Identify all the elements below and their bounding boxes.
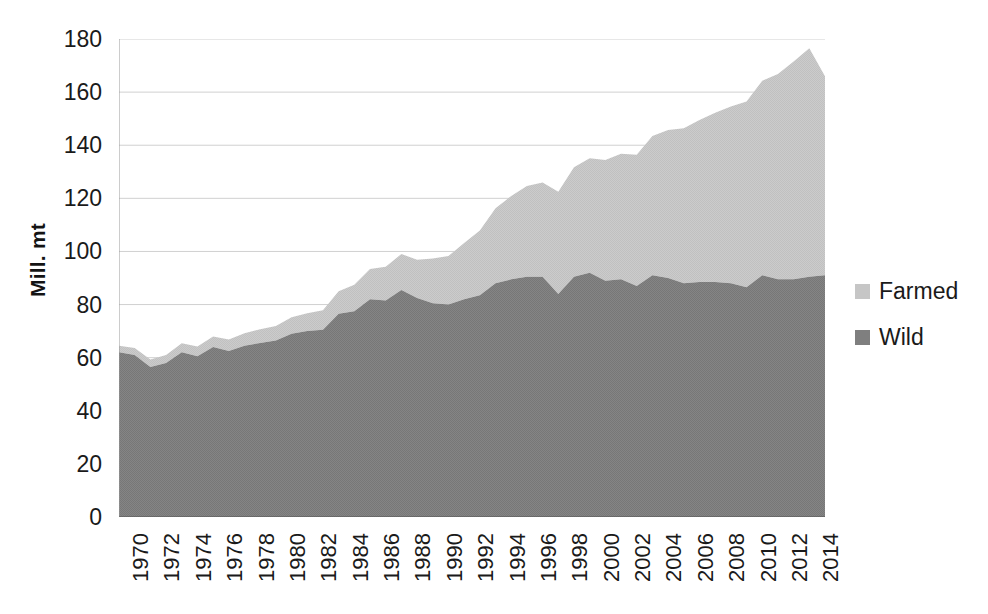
- y-tick-label: 60: [76, 344, 102, 371]
- x-tick-label: 2008: [724, 533, 750, 582]
- y-tick-label: 80: [76, 291, 102, 318]
- x-tick-label: 1974: [191, 533, 217, 582]
- x-tick-label: 2000: [599, 533, 625, 582]
- x-tick-label: 1988: [410, 533, 436, 582]
- legend-entry-farmed[interactable]: Farmed: [855, 268, 985, 314]
- x-axis-tick-labels: 1970197219741976197819801982198419861988…: [119, 517, 825, 614]
- chart-legend: FarmedWild: [855, 268, 985, 360]
- legend-label: Farmed: [879, 278, 958, 305]
- x-tick-label: 1980: [285, 533, 311, 582]
- x-tick-label: 1990: [442, 533, 468, 582]
- stacked-area-chart: Mill. mt 020406080100120140160180: [0, 0, 988, 614]
- legend-entry-wild[interactable]: Wild: [855, 314, 985, 360]
- y-tick-label: 100: [64, 238, 102, 265]
- x-tick-label: 1978: [254, 533, 280, 582]
- y-tick-label: 40: [76, 397, 102, 424]
- y-tick-label: 140: [64, 132, 102, 159]
- x-tick-label: 2002: [630, 533, 656, 582]
- x-tick-label: 2004: [661, 533, 687, 582]
- legend-label: Wild: [879, 324, 924, 351]
- legend-swatch-icon: [855, 284, 870, 299]
- x-tick-label: 1998: [567, 533, 593, 582]
- y-tick-label: 0: [89, 504, 102, 531]
- x-tick-label: 1970: [128, 533, 154, 582]
- x-tick-label: 1996: [536, 533, 562, 582]
- area-series-wild: [119, 273, 825, 517]
- x-tick-label: 1992: [473, 533, 499, 582]
- y-tick-label: 180: [64, 26, 102, 53]
- plot-svg: [119, 39, 825, 517]
- x-tick-label: 1982: [316, 533, 342, 582]
- x-tick-label: 2012: [787, 533, 813, 582]
- y-axis-tick-labels: 020406080100120140160180: [46, 0, 112, 560]
- y-tick-label: 20: [76, 450, 102, 477]
- y-tick-label: 120: [64, 185, 102, 212]
- area-wild: [119, 273, 825, 517]
- x-tick-label: 2006: [693, 533, 719, 582]
- x-tick-label: 1972: [159, 533, 185, 582]
- x-tick-label: 1994: [505, 533, 531, 582]
- plot-area: [119, 39, 825, 517]
- x-tick-label: 2010: [756, 533, 782, 582]
- x-tick-label: 1986: [379, 533, 405, 582]
- legend-swatch-icon: [855, 330, 870, 345]
- x-tick-label: 1984: [348, 533, 374, 582]
- x-tick-label: 2014: [818, 533, 844, 582]
- y-tick-label: 160: [64, 79, 102, 106]
- x-tick-label: 1976: [222, 533, 248, 582]
